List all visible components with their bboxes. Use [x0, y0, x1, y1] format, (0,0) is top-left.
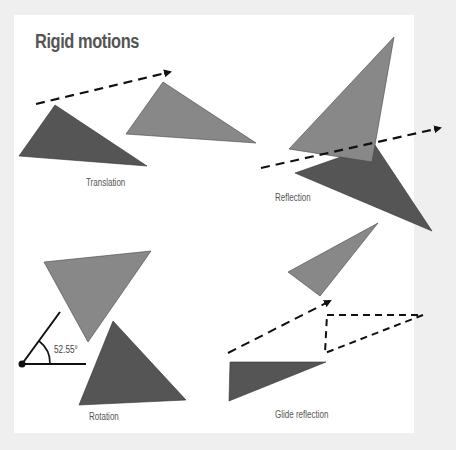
translation-original-triangle [19, 105, 147, 166]
rotation-image-triangle [79, 321, 186, 405]
rotation-angle-arc [39, 341, 50, 364]
reflection-label: Reflection [275, 192, 311, 203]
translation-image-triangle [126, 82, 256, 143]
page-title: Rigid motions [35, 30, 139, 53]
glide-vector-arrow [228, 301, 330, 353]
translation-label: Translation [86, 177, 125, 188]
rotation-panel [19, 251, 187, 405]
rigid-motions-diagram [0, 0, 456, 450]
rotation-center-point [19, 361, 26, 368]
glide-image-triangle [288, 223, 378, 296]
glide-original-triangle [229, 362, 326, 401]
reflection-original-triangle [289, 37, 394, 162]
glide-reflection-label: Glide reflection [275, 409, 328, 420]
rotation-original-triangle [44, 251, 151, 342]
rotation-angle-label: 52.55° [54, 344, 78, 355]
translation-vector-arrow [36, 72, 170, 104]
glide-intermediate-dashed-triangle [325, 315, 423, 353]
translation-panel [19, 72, 256, 166]
glide-reflection-panel [228, 223, 423, 401]
rotation-angle-ray-diagonal [22, 312, 60, 364]
rotation-label: Rotation [89, 411, 119, 422]
